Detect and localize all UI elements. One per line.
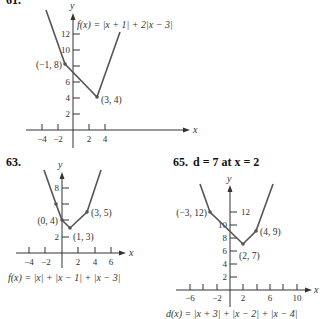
x-axis-label: x (313, 284, 319, 295)
point-label: (0, 4) (37, 216, 58, 227)
x-axis-arrow-icon (183, 128, 190, 133)
svg-text:10: 10 (293, 293, 303, 303)
svg-text:12: 12 (61, 29, 70, 39)
point-marker (208, 210, 212, 214)
graph-63: 63. x y −4 −2 2 4 6 2 8 (6, 155, 134, 284)
point-label: (3, 4) (101, 95, 122, 106)
svg-text:4: 4 (103, 134, 108, 144)
problem-number-63: 63. (6, 155, 21, 169)
y-axis-arrow-icon (60, 172, 65, 179)
svg-text:−2: −2 (53, 134, 63, 144)
function-label-61: f(x) = |x + 1| + 2|x − 3| (77, 19, 173, 31)
graph-61: 61. x y −4 −2 2 4 2 4 6 (6, 0, 198, 148)
point-marker (254, 229, 258, 233)
graph-65: 65. d = 7 at x = 2 x y −6 −2 2 6 10 (166, 155, 319, 319)
point-label: (−3, 12) (176, 208, 207, 219)
svg-text:6: 6 (66, 77, 71, 87)
y-axis-label: y (69, 0, 75, 11)
svg-text:2: 2 (66, 109, 71, 119)
svg-text:−4: −4 (37, 134, 47, 144)
y-ticks: 2 4 6 10 12 (61, 29, 80, 119)
figure-canvas: 61. x y −4 −2 2 4 2 4 6 (0, 0, 320, 319)
svg-text:2: 2 (87, 134, 92, 144)
point-marker (68, 226, 72, 230)
y-axis-label: y (226, 173, 232, 184)
y-axis-label: y (57, 159, 63, 170)
function-label-63: f(x) = |x| + |x − 1| + |x − 3| (8, 272, 120, 284)
svg-text:−4: −4 (24, 257, 34, 267)
svg-text:2: 2 (223, 272, 228, 282)
svg-text:−2: −2 (212, 293, 222, 303)
svg-text:−6: −6 (185, 293, 195, 303)
y-ticks: 2 4 6 8 10 12 (218, 207, 250, 282)
svg-text:2: 2 (55, 232, 60, 242)
svg-text:2: 2 (241, 293, 246, 303)
point-label: (2, 7) (239, 251, 260, 262)
y-axis-arrow-icon (228, 185, 233, 192)
svg-text:6: 6 (268, 293, 273, 303)
point-marker (54, 202, 58, 206)
x-axis-label: x (128, 247, 134, 258)
svg-text:4: 4 (66, 93, 71, 103)
svg-text:6: 6 (223, 246, 228, 256)
svg-text:8: 8 (223, 233, 228, 243)
x-ticks: −4 −2 2 4 6 (24, 247, 114, 267)
problem-answer-65: d = 7 at x = 2 (193, 155, 259, 169)
svg-text:10: 10 (61, 45, 71, 55)
point-marker (95, 95, 99, 99)
svg-text:4: 4 (93, 257, 98, 267)
x-ticks: −6 −2 2 6 10 (185, 284, 302, 303)
x-axis-label: x (192, 124, 198, 135)
svg-text:8: 8 (55, 183, 60, 193)
point-label: (4, 9) (260, 227, 281, 238)
point-marker (63, 62, 67, 66)
x-axis-arrow-icon (119, 251, 126, 256)
point-marker (85, 210, 89, 214)
svg-text:−2: −2 (41, 257, 51, 267)
x-ticks: −4 −2 2 4 (37, 124, 108, 144)
svg-text:4: 4 (223, 259, 228, 269)
svg-text:6: 6 (109, 257, 114, 267)
point-marker (60, 218, 64, 222)
x-axis-arrow-icon (305, 288, 312, 293)
problem-number-61: 61. (6, 0, 21, 7)
point-label: (1, 3) (73, 232, 94, 243)
point-marker (241, 242, 245, 246)
problem-number-65: 65. (173, 155, 188, 169)
point-label: (3, 5) (91, 208, 112, 219)
point-label: (−1, 8) (36, 60, 62, 71)
y-axis-arrow-icon (71, 13, 76, 20)
function-label-65: d(x) = |x + 3| + |x − 2| + |x − 4| (166, 308, 297, 319)
svg-text:12: 12 (241, 207, 250, 217)
svg-text:2: 2 (76, 257, 81, 267)
